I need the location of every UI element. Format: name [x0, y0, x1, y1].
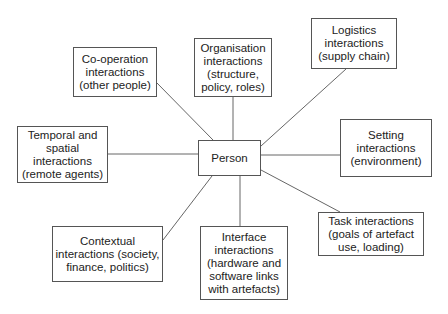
node-label-line: Contextual — [56, 235, 160, 248]
node-label-line: interactions — [79, 66, 151, 79]
node-label-line: spatial interactions — [20, 142, 105, 168]
node-label-line: (hardware and — [207, 257, 281, 270]
node-label-line: finance, politics) — [56, 261, 160, 274]
node-label-line: policy, roles) — [200, 81, 265, 94]
node-interface: Interface interactions (hardware and sof… — [200, 226, 288, 300]
node-organisation: Organisation interactions (structure, po… — [194, 38, 272, 97]
node-label-line: Co-operation — [79, 53, 151, 66]
node-label-line: (remote agents) — [20, 168, 105, 181]
node-label-line: Temporal and — [20, 129, 105, 142]
node-label-line: interactions — [318, 37, 390, 50]
diagram-canvas: Person Co-operation interactions (other … — [0, 0, 448, 314]
node-label-line: with artefacts) — [207, 283, 281, 296]
node-label-line: Setting — [351, 129, 422, 142]
node-label: Person — [211, 152, 247, 165]
node-label-line: interactions — [200, 55, 265, 68]
node-label-line: (environment) — [351, 155, 422, 168]
node-task: Task interactions (goals of artefact use… — [318, 212, 424, 256]
node-label-line: interactions (society, — [56, 248, 160, 261]
node-label-line: Logistics — [318, 24, 390, 37]
node-label-line: (supply chain) — [318, 50, 390, 63]
node-cooperation: Co-operation interactions (other people) — [73, 47, 157, 97]
node-label-line: Interface — [207, 231, 281, 244]
node-label-line: interactions — [207, 244, 281, 257]
node-temporal: Temporal and spatial interactions (remot… — [17, 126, 108, 183]
node-setting: Setting interactions (environment) — [340, 119, 432, 177]
node-person: Person — [198, 140, 261, 176]
node-label-line: Organisation — [200, 42, 265, 55]
node-label-line: use, loading) — [328, 241, 414, 254]
node-logistics: Logistics interactions (supply chain) — [311, 18, 397, 69]
node-label-line: (goals of artefact — [328, 228, 414, 241]
node-label-line: software links — [207, 270, 281, 283]
node-label-line: (structure, — [200, 68, 265, 81]
node-contextual: Contextual interactions (society, financ… — [52, 226, 163, 282]
node-label-line: (other people) — [79, 79, 151, 92]
node-label-line: Task interactions — [328, 215, 414, 228]
node-label-line: interactions — [351, 142, 422, 155]
